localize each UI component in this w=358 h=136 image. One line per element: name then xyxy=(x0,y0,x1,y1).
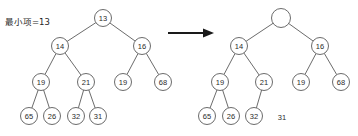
node-label: 26 xyxy=(227,112,235,121)
right_tree-node-19: 19 xyxy=(293,74,310,91)
tree-edge xyxy=(89,90,95,108)
tree-edge xyxy=(127,54,138,75)
node-label: 19 xyxy=(216,78,224,87)
node-label: 65 xyxy=(203,112,211,121)
node-label: 32 xyxy=(250,112,258,121)
left_tree-node-68: 68 xyxy=(155,74,172,91)
node-label: 16 xyxy=(138,42,146,51)
right_tree-node-65: 65 xyxy=(199,108,216,125)
tree-edge xyxy=(246,23,273,41)
tree-edge xyxy=(223,90,229,108)
node-label: 13 xyxy=(99,14,107,23)
tree-edge xyxy=(32,90,38,108)
node-label: 19 xyxy=(297,78,305,87)
node-label: 31 xyxy=(94,112,102,121)
left_tree-node-19: 19 xyxy=(33,74,50,91)
tree-edge xyxy=(289,24,313,42)
tree-edge xyxy=(45,54,56,75)
right_tree-node-21: 21 xyxy=(256,74,273,91)
tree-edge xyxy=(256,90,261,108)
tree-edge xyxy=(244,53,259,75)
diagram-canvas: 1314161921196865263231 14161921196865263… xyxy=(0,0,358,136)
right_tree-node-68: 68 xyxy=(333,74,350,91)
tree-edge xyxy=(305,54,316,75)
tree-edge xyxy=(210,90,217,108)
tree-edge xyxy=(324,53,336,74)
tree-edge xyxy=(65,53,81,75)
right_tree-node-14: 14 xyxy=(231,38,248,55)
right_tree-node-16: 16 xyxy=(312,38,329,55)
right_tree-node-19: 19 xyxy=(212,74,229,91)
node-label: 68 xyxy=(337,78,345,87)
result-heap-edges xyxy=(210,23,337,108)
node-label: 14 xyxy=(235,42,243,51)
tree-edge xyxy=(44,90,50,108)
right-arrow-icon xyxy=(168,28,214,37)
result-heap-nodes: 141619211968652632 xyxy=(199,9,350,125)
node-label: 68 xyxy=(159,78,167,87)
detached-values: 31 xyxy=(278,113,286,122)
node-label: 16 xyxy=(316,42,324,51)
tree-edge xyxy=(78,90,83,108)
left_tree-node-13: 13 xyxy=(95,10,112,27)
right_tree-node-32: 32 xyxy=(246,108,263,125)
left_tree-node-32: 32 xyxy=(68,108,85,125)
right_tree-node-26: 26 xyxy=(223,108,240,125)
heap-removal-diagram: 1314161921196865263231 14161921196865263… xyxy=(0,0,358,136)
node-label: 19 xyxy=(119,78,127,87)
node-circle xyxy=(272,9,291,28)
node-label: 32 xyxy=(72,112,80,121)
tree-edge xyxy=(224,54,235,75)
detached-value-31: 31 xyxy=(278,113,286,122)
left_tree-node-65: 65 xyxy=(21,108,38,125)
left_tree-node-26: 26 xyxy=(44,108,61,125)
left_tree-node-31: 31 xyxy=(90,108,107,125)
node-label: 19 xyxy=(37,78,45,87)
tree-edge xyxy=(146,53,158,74)
original-heap-edges xyxy=(32,23,159,108)
left_tree-node-19: 19 xyxy=(115,74,132,91)
node-label: 21 xyxy=(260,78,268,87)
left_tree-node-16: 16 xyxy=(134,38,151,55)
tree-edge xyxy=(110,23,135,41)
min-item-caption: 最小项=13 xyxy=(5,17,50,27)
right_tree-node-empty xyxy=(272,9,291,28)
node-label: 14 xyxy=(56,42,64,51)
left_tree-node-21: 21 xyxy=(78,74,95,91)
node-label: 65 xyxy=(25,112,33,121)
node-label: 21 xyxy=(82,78,90,87)
tree-edge xyxy=(67,23,96,42)
left_tree-node-14: 14 xyxy=(52,38,69,55)
node-label: 26 xyxy=(48,112,56,121)
